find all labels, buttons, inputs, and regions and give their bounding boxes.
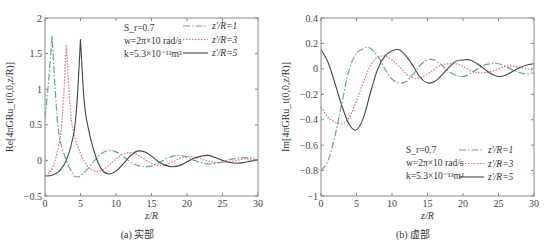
y-tick-label: 0.2: [306, 38, 319, 49]
y-axis-label: Im[4πGRu_t(0,0,z/R)]: [280, 62, 292, 152]
chart-panel-real: 051015202530−0.500.511.52z/RRe[4πGRu_t(0…: [0, 0, 275, 251]
legend-label: z'/R=5: [211, 48, 238, 58]
imag-part-plot: 051015202530−1−0.8−0.6−0.4−0.200.20.4z/R…: [275, 0, 551, 251]
y-tick-label: −0.4: [300, 114, 318, 125]
x-axis-label: z/R: [144, 210, 158, 221]
y-tick-label: 0: [313, 63, 318, 74]
x-tick-label: 30: [529, 198, 539, 209]
x-tick-label: 10: [387, 198, 397, 209]
x-axis-label: z/R: [420, 210, 434, 221]
caption-imag: (b) 虚部: [275, 226, 551, 241]
y-tick-label: −0.6: [300, 140, 318, 151]
y-axis-label: Re[4πGRu_t(0,0,z/R)]: [4, 62, 16, 152]
y-tick-label: −0.8: [300, 165, 318, 176]
legend-label: z'/R=3: [487, 159, 514, 169]
x-tick-label: 5: [354, 198, 359, 209]
x-tick-label: 5: [78, 198, 83, 209]
y-tick-label: 2: [37, 13, 42, 24]
parameter-annotation: w=2π×10 rad/s: [124, 36, 182, 46]
y-tick-label: 1: [37, 84, 42, 95]
y-tick-label: 1.5: [30, 48, 43, 59]
y-tick-label: −0.2: [300, 89, 318, 100]
caption-real: (a) 实部: [0, 226, 275, 241]
parameter-annotation: k=5.3×10⁻¹³m²: [406, 171, 464, 181]
x-tick-label: 25: [494, 198, 504, 209]
x-tick-label: 20: [182, 198, 192, 209]
chart-panel-imag: 051015202530−1−0.8−0.6−0.4−0.200.20.4z/R…: [275, 0, 551, 251]
x-tick-label: 0: [43, 198, 48, 209]
parameter-annotation: w=2π×10 rad/s: [406, 158, 464, 168]
y-tick-label: −0.5: [24, 191, 42, 202]
x-tick-label: 15: [423, 198, 433, 209]
parameter-annotation: k=5.3×10⁻¹³m²: [124, 49, 182, 59]
legend-label: z'/R=1: [211, 21, 237, 31]
y-tick-label: 0.4: [306, 13, 319, 24]
x-tick-label: 20: [458, 198, 468, 209]
legend-label: z'/R=5: [487, 172, 514, 182]
plot-frame: [321, 18, 534, 196]
parameter-annotation: S_r=0.7: [406, 145, 437, 155]
x-tick-label: 30: [253, 198, 263, 209]
x-tick-label: 15: [147, 198, 157, 209]
parameter-annotation: S_r=0.7: [124, 23, 155, 33]
series-line-3: [45, 39, 258, 176]
series-line-3: [321, 49, 534, 130]
y-tick-label: 0.5: [30, 119, 43, 130]
y-tick-label: −1: [307, 191, 318, 202]
series-line-2: [321, 56, 534, 124]
legend-label: z'/R=3: [211, 35, 238, 45]
x-tick-label: 25: [218, 198, 228, 209]
y-tick-label: 0: [37, 155, 42, 166]
legend-label: z'/R=1: [487, 145, 513, 155]
real-part-plot: 051015202530−0.500.511.52z/RRe[4πGRu_t(0…: [0, 0, 275, 251]
x-tick-label: 0: [319, 198, 324, 209]
x-tick-label: 10: [111, 198, 121, 209]
